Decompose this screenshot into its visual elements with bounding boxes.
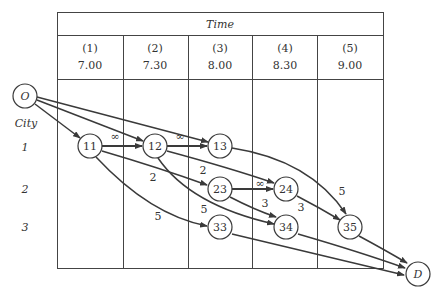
edge-label-13-35: 5 [339,185,346,198]
column-time-2: 7.30 [143,59,168,72]
column-headers: (1) 7.00 (2) 7.30 (3) 8.00 (4) 8.30 (5) … [78,42,363,72]
svg-text:12: 12 [148,140,162,153]
column-time-3: 8.00 [208,59,233,72]
node-23: 23 [208,177,232,201]
edge-label-11-33: 5 [155,210,162,223]
node-35: 35 [338,215,362,239]
edge-label-11-12: ∞ [110,130,119,143]
column-time-4: 8.30 [273,59,298,72]
city-label: City [15,117,38,130]
svg-text:13: 13 [213,140,227,153]
node-33: 33 [208,215,232,239]
edge-label-23-24: ∞ [255,177,264,190]
time-header: Time [206,18,234,31]
svg-text:35: 35 [343,221,357,234]
column-index-5: (5) [342,42,358,55]
row-labels: City 1 2 3 [15,117,38,234]
column-index-2: (2) [147,42,163,55]
column-time-5: 9.00 [338,59,363,72]
node-34: 34 [274,215,298,239]
svg-text:33: 33 [213,221,227,234]
edge-label-24-35: 3 [298,201,305,214]
city-row-3: 3 [22,221,29,234]
edge-11-33 [96,157,207,226]
edge-label-11-23: 2 [150,171,157,184]
node-sink: D [406,262,430,286]
svg-text:D: D [413,268,423,281]
column-index-3: (3) [212,42,228,55]
column-index-1: (1) [82,42,98,55]
edge-label-23-34: 3 [262,197,269,210]
edge-label-12-34: 5 [201,203,208,216]
column-index-4: (4) [277,42,293,55]
city-row-1: 1 [22,141,29,154]
edge-label-12-13: ∞ [175,130,184,143]
svg-text:O: O [20,90,29,103]
city-row-2: 2 [21,183,29,196]
svg-text:23: 23 [213,183,227,196]
node-24: 24 [274,177,298,201]
node-origin: O [13,84,37,108]
svg-text:34: 34 [279,221,293,234]
edge-label-12-24: 2 [200,164,207,177]
time-expanded-network-diagram: Time (1) 7.00 (2) 7.30 (3) 8.00 (4) 8.30… [0,0,442,299]
column-time-1: 7.00 [78,59,103,72]
node-11: 11 [78,134,102,158]
svg-text:24: 24 [279,183,293,196]
node-13: 13 [208,134,232,158]
node-12: 12 [143,134,167,158]
svg-text:11: 11 [83,140,97,153]
